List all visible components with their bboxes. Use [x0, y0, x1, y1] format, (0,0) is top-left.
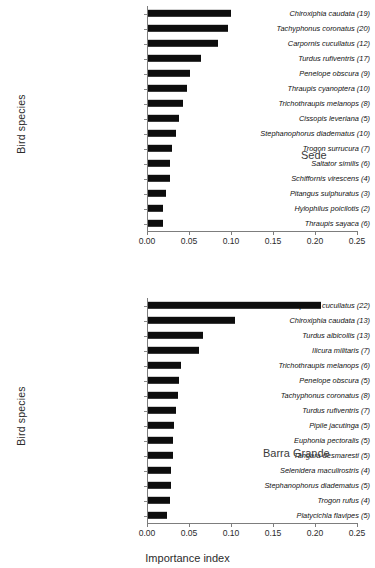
bar	[147, 332, 203, 339]
bar-row: Stephanophorus diadematus (10)	[0, 126, 375, 141]
bar	[147, 407, 176, 414]
bar-row: Pipile jacutinga (5)	[0, 418, 375, 433]
bar	[147, 422, 174, 429]
category-label: Pitangus sulphuratus (3)	[233, 190, 375, 198]
bar-row: Tachyphonus coronatus (20)	[0, 21, 375, 36]
bar	[147, 347, 199, 354]
site-label-barra-grande: Barra Grande	[263, 447, 330, 459]
x-axis-tick-label: 0.15	[265, 528, 282, 538]
category-label: Tachyphonus coronatus (20)	[233, 25, 375, 33]
bar	[147, 175, 170, 182]
x-axis-tick	[273, 231, 274, 235]
y-axis-line-barra-grande	[147, 298, 148, 523]
bar	[147, 512, 167, 519]
x-axis-tick-label: 0.25	[349, 236, 366, 246]
bar	[147, 205, 163, 212]
x-axis-tick	[189, 523, 190, 527]
bar	[147, 437, 173, 444]
bar-row: Platycichla flavipes (5)	[0, 508, 375, 523]
y-axis-line-sede	[147, 6, 148, 231]
category-label: Penelope obscura (5)	[233, 377, 375, 385]
x-axis-line-sede	[147, 231, 357, 232]
category-label: Thraupis cyanoptera (10)	[233, 85, 375, 93]
x-axis-tick-label: 0.15	[265, 236, 282, 246]
bar	[147, 220, 163, 227]
bar-row: Penelope obscura (9)	[0, 66, 375, 81]
bar-row: Turdus albicollis (13)	[0, 328, 375, 343]
bar-row: Trogon rufus (4)	[0, 493, 375, 508]
bar-row: Schiffornis virescens (4)	[0, 171, 375, 186]
x-axis-tick	[231, 231, 232, 235]
category-label: Pipile jacutinga (5)	[233, 422, 375, 430]
bar-row: Euphonia pectoralis (5)	[0, 433, 375, 448]
category-label: Carpornis cucullatus (12)	[233, 40, 375, 48]
bar	[147, 362, 181, 369]
bar	[147, 55, 201, 62]
x-axis-tick	[231, 523, 232, 527]
x-axis-tick	[357, 231, 358, 235]
category-label: Euphonia pectoralis (5)	[233, 437, 375, 445]
bar-row: Carpornis cucullatus (22)	[0, 298, 375, 313]
category-label: Ilicura militaris (7)	[233, 347, 375, 355]
x-axis-tick-label: 0.20	[307, 236, 324, 246]
x-axis-tick-label: 0.20	[307, 528, 324, 538]
bar	[147, 85, 187, 92]
x-axis-tick	[315, 231, 316, 235]
category-label: Penelope obscura (9)	[233, 70, 375, 78]
x-axis-tick-label: 0.05	[181, 236, 198, 246]
bar	[147, 145, 172, 152]
chart-panel-barra-grande: Bird species Carpornis cucullatus (22)Ch…	[0, 284, 375, 568]
x-axis-tick	[147, 231, 148, 235]
bar	[147, 10, 231, 17]
category-label: Tachyphonus coronatus (8)	[233, 392, 375, 400]
x-axis-tick-label: 0.05	[181, 528, 198, 538]
x-axis-tick	[273, 523, 274, 527]
plot-area-barra-grande: Carpornis cucullatus (22)Chiroxiphia cau…	[0, 292, 375, 532]
bar-row: Stephanophorus diadematus (5)	[0, 478, 375, 493]
bar	[147, 497, 170, 504]
bar	[147, 392, 178, 399]
category-label: Platycichla flavipes (5)	[233, 512, 375, 520]
category-label: Trichothraupis melanops (8)	[233, 100, 375, 108]
x-axis-tick-label: 0.00	[139, 236, 156, 246]
bar-row: Thraupis cyanoptera (10)	[0, 81, 375, 96]
bar-row: Turdus rufiventris (17)	[0, 51, 375, 66]
category-label: Cissopis leveriana (5)	[233, 115, 375, 123]
category-label: Hylophilus poicilotis (2)	[233, 205, 375, 213]
bar-row: Trichothraupis melanops (6)	[0, 358, 375, 373]
bar-row: Thraupis sayaca (6)	[0, 216, 375, 231]
bar	[147, 467, 171, 474]
x-axis-tick-label: 0.25	[349, 528, 366, 538]
category-label: Chiroxiphia caudata (19)	[233, 10, 375, 18]
x-axis-tick	[189, 231, 190, 235]
bar	[147, 160, 170, 167]
plot-area-sede: Chiroxiphia caudata (19)Tachyphonus coro…	[0, 0, 375, 240]
bar-row: Chiroxiphia caudata (13)	[0, 313, 375, 328]
bar-row: Tachyphonus coronatus (8)	[0, 388, 375, 403]
bar	[147, 302, 321, 309]
category-label: Stephanophorus diadematus (10)	[233, 130, 375, 138]
category-label: Trichothraupis melanops (6)	[233, 362, 375, 370]
site-label-sede: Sede	[301, 149, 327, 161]
bar	[147, 452, 173, 459]
bar	[147, 40, 218, 47]
bar-row: Selenidera maculirostris (4)	[0, 463, 375, 478]
category-label: Selenidera maculirostris (4)	[233, 467, 375, 475]
bar-row: Chiroxiphia caudata (19)	[0, 6, 375, 21]
bar	[147, 377, 179, 384]
bar-row: Turdus rufiventris (7)	[0, 403, 375, 418]
bar-row: Pitangus sulphuratus (3)	[0, 186, 375, 201]
x-axis-line-barra-grande	[147, 523, 357, 524]
x-axis-tick	[147, 523, 148, 527]
bar	[147, 100, 183, 107]
category-label: Turdus rufiventris (17)	[233, 55, 375, 63]
category-label: Chiroxiphia caudata (13)	[233, 317, 375, 325]
x-axis-tick-label: 0.10	[223, 528, 240, 538]
bar	[147, 70, 190, 77]
bar	[147, 130, 176, 137]
bar-row: Hylophilus poicilotis (2)	[0, 201, 375, 216]
chart-panel-sede: Bird species Chiroxiphia caudata (19)Tac…	[0, 0, 375, 284]
category-label: Thraupis sayaca (6)	[233, 220, 375, 228]
x-axis-tick	[357, 523, 358, 527]
category-label: Stephanophorus diadematus (5)	[233, 482, 375, 490]
